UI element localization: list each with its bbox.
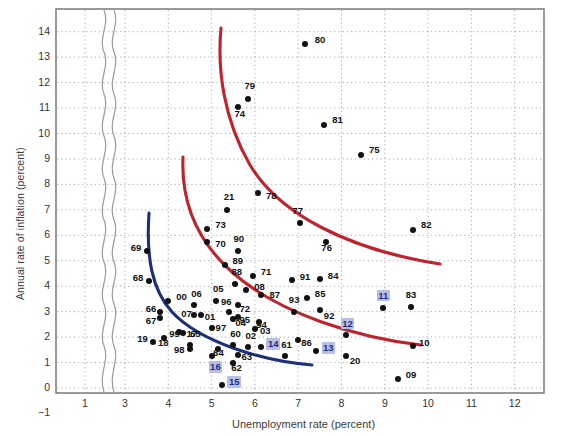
y-tick-label: 6	[22, 228, 50, 240]
data-point-label: 93	[289, 295, 300, 305]
data-point-label: 85	[315, 289, 326, 299]
data-point-label: 12	[341, 318, 355, 330]
data-point-label: 04	[235, 318, 246, 328]
x-tick-label: 7	[284, 397, 312, 409]
y-tick-label: 4	[22, 279, 50, 291]
x-tick-label: 3	[111, 397, 139, 409]
x-tick-label: 8	[328, 397, 356, 409]
data-point	[235, 248, 241, 254]
x-axis-title: Unemployment rate (percent)	[232, 418, 375, 430]
y-tick-label: −1	[22, 406, 50, 418]
data-point-label: 67	[146, 316, 157, 326]
data-point	[187, 346, 193, 352]
data-point-label: 79	[244, 81, 255, 91]
y-tick-label: 8	[22, 177, 50, 189]
data-point-label: 16	[209, 361, 223, 373]
data-point-label: 74	[234, 109, 245, 119]
data-point	[204, 239, 210, 245]
data-point-label: 18	[158, 338, 169, 348]
data-point-label: 15	[227, 376, 241, 388]
data-point-label: 08	[254, 282, 265, 292]
data-point-label: 80	[315, 35, 326, 45]
x-tick-label: 9	[371, 397, 399, 409]
y-tick-label: 0	[22, 381, 50, 393]
data-point-label: 62	[231, 363, 242, 373]
y-tick-label: 2	[22, 330, 50, 342]
data-point-label: 82	[421, 220, 432, 230]
data-point-label: 73	[215, 220, 226, 230]
data-point-label: 96	[221, 297, 232, 307]
data-point	[410, 343, 416, 349]
data-point-label: 78	[266, 191, 277, 201]
x-tick-label: 5	[198, 397, 226, 409]
data-point-label: 75	[369, 145, 380, 155]
data-point-label: 69	[131, 243, 142, 253]
data-point-label: 92	[324, 311, 335, 321]
data-point-label: 11	[377, 290, 390, 302]
data-point	[146, 278, 152, 284]
x-tick-label: 6	[241, 397, 269, 409]
data-point	[313, 348, 319, 354]
data-point-label: 68	[133, 273, 144, 283]
data-point-label: 03	[260, 326, 271, 336]
data-point-label: 89	[233, 256, 244, 266]
x-tick-label: 4	[154, 397, 182, 409]
data-point-label: 97	[216, 323, 227, 333]
data-point	[343, 332, 349, 338]
y-tick-label: 5	[22, 254, 50, 266]
data-point-label: 64	[213, 348, 224, 358]
data-point-label: 90	[234, 234, 245, 244]
data-point-label: 65	[190, 329, 201, 339]
data-point	[209, 353, 215, 359]
data-point	[317, 276, 323, 282]
y-tick-label: 7	[22, 203, 50, 215]
data-point	[304, 295, 310, 301]
data-point-label: 83	[406, 290, 417, 300]
plot-frame	[56, 9, 544, 393]
data-point	[380, 305, 386, 311]
y-tick-label: 12	[22, 76, 50, 88]
data-point	[297, 220, 303, 226]
data-point-label: 05	[213, 284, 224, 294]
data-point	[408, 304, 414, 310]
data-point-label: 21	[224, 192, 235, 202]
data-point	[291, 309, 297, 315]
data-point-label: 01	[205, 312, 216, 322]
data-point	[222, 262, 228, 268]
data-point-label: 87	[269, 290, 280, 300]
phillips-curve-chart: −101234567891011121314 13456789101112 80…	[0, 0, 561, 436]
data-point	[235, 352, 241, 358]
data-point-label: 07	[181, 309, 192, 319]
x-tick-label: 12	[501, 397, 529, 409]
data-point-label: 71	[261, 267, 272, 277]
data-point-label: 06	[191, 289, 202, 299]
data-point	[144, 248, 150, 254]
data-point-label: 09	[406, 370, 417, 380]
data-point-label: 14	[266, 338, 280, 350]
data-point	[395, 376, 401, 382]
y-tick-label: 3	[22, 305, 50, 317]
data-point	[230, 342, 236, 348]
data-point-label: 77	[292, 206, 303, 216]
y-tick-label: 13	[22, 50, 50, 62]
data-point-label: 88	[231, 267, 242, 277]
data-point	[250, 273, 256, 279]
y-tick-label: 11	[22, 101, 50, 113]
data-point-label: 13	[322, 342, 336, 354]
data-point	[157, 309, 163, 315]
data-point-label: 70	[215, 239, 226, 249]
y-axis-title: Annual rate of inflation (percent)	[14, 147, 26, 300]
y-tick-label: 1	[22, 356, 50, 368]
x-tick-label: 11	[457, 397, 485, 409]
y-tick-label: 9	[22, 152, 50, 164]
data-point-label: 76	[321, 243, 332, 253]
data-point-label: 61	[281, 340, 292, 350]
data-point-label: 20	[350, 356, 361, 366]
plot-canvas	[0, 0, 561, 436]
data-point-label: 72	[240, 304, 251, 314]
data-point-label: 10	[419, 338, 430, 348]
data-point	[224, 207, 230, 213]
data-point-label: 60	[230, 329, 241, 339]
data-point-label: 91	[300, 272, 311, 282]
data-point-label: 66	[146, 304, 157, 314]
